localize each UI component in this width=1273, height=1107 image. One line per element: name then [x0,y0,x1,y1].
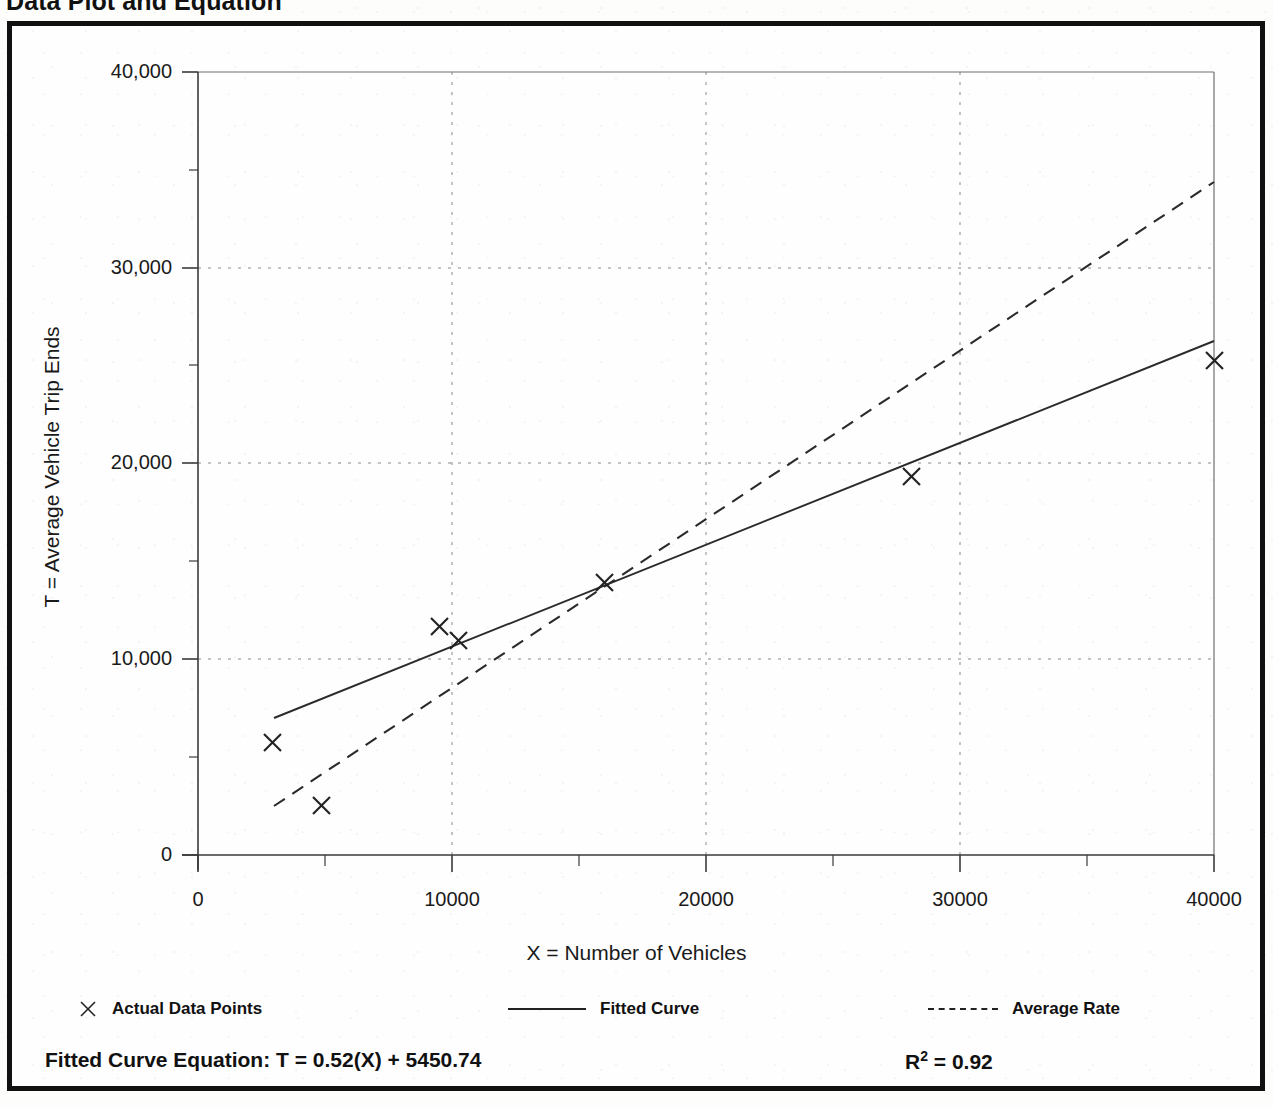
y-tick-label-30000: 30,000 [60,256,172,279]
legend-item-fitted-curve: Fitted Curve [508,999,699,1019]
r-squared-value: R2 = 0.92 [905,1048,993,1074]
x-tick-label-20000: 20000 [646,888,766,911]
legend-item-average-rate: Average Rate [928,999,1120,1019]
x-tick-label-40000: 40000 [1154,888,1273,911]
y-tick-label-20000: 20,000 [60,451,172,474]
legend-item-actual-data-points: Actual Data Points [78,999,262,1019]
legend-label: Fitted Curve [600,999,699,1019]
y-tick-label-40000: 40,000 [60,60,172,83]
legend-label: Actual Data Points [112,999,262,1019]
page-title: Data Plot and Equation [6,0,282,16]
x-tick-label-10000: 10000 [392,888,512,911]
r-symbol: R [905,1050,920,1073]
y-axis-title: T = Average Vehicle Trip Ends [40,267,64,667]
r-value: = 0.92 [934,1050,993,1073]
y-tick-label-0: 0 [60,843,172,866]
y-tick-label-10000: 10,000 [60,647,172,670]
dashed-line-icon [928,1008,998,1010]
chart-legend: Actual Data Points Fitted Curve Average … [0,995,1273,1035]
fitted-curve-equation: Fitted Curve Equation: T = 0.52(X) + 545… [45,1048,481,1072]
chart-frame [7,21,1265,1091]
r-exponent: 2 [920,1048,928,1064]
legend-label: Average Rate [1012,999,1120,1019]
x-marker-icon [78,999,98,1019]
x-tick-label-0: 0 [138,888,258,911]
x-tick-label-30000: 30000 [900,888,1020,911]
chart-frame-inner [12,26,1260,1086]
equation-row: Fitted Curve Equation: T = 0.52(X) + 545… [0,1048,1273,1088]
x-axis-title: X = Number of Vehicles [0,941,1273,965]
solid-line-icon [508,1008,586,1010]
page-canvas: Data Plot and Equation [0,0,1273,1107]
